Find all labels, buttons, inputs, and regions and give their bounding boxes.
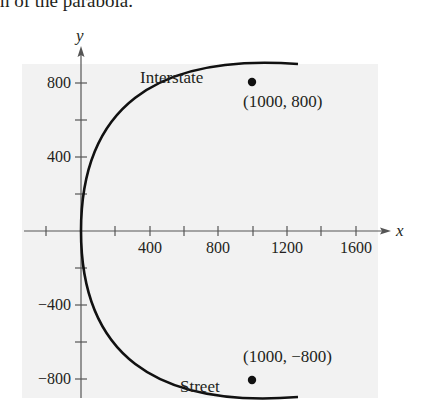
x-tick-label: 400	[138, 239, 162, 256]
point-street	[248, 376, 256, 384]
parabola-chart: x y 400 800 1200 1600 800 400 −400 −800 …	[0, 0, 433, 419]
x-tick-label: 1600	[340, 239, 372, 256]
y-tick-label: 400	[47, 148, 71, 165]
x-tick-label: 1200	[271, 239, 303, 256]
y-tick-label: −400	[38, 296, 71, 313]
interstate-label: Interstate	[140, 68, 203, 87]
x-axis-label: x	[395, 221, 404, 240]
y-tick-label: 800	[47, 74, 71, 91]
point-bottom-label: (1000, −800)	[243, 347, 332, 366]
point-top-label: (1000, 800)	[243, 92, 322, 111]
y-axis-label: y	[74, 26, 84, 45]
point-interstate	[248, 78, 256, 86]
street-label: Street	[180, 377, 220, 396]
x-tick-label: 800	[206, 239, 230, 256]
y-tick-label: −800	[38, 370, 71, 387]
